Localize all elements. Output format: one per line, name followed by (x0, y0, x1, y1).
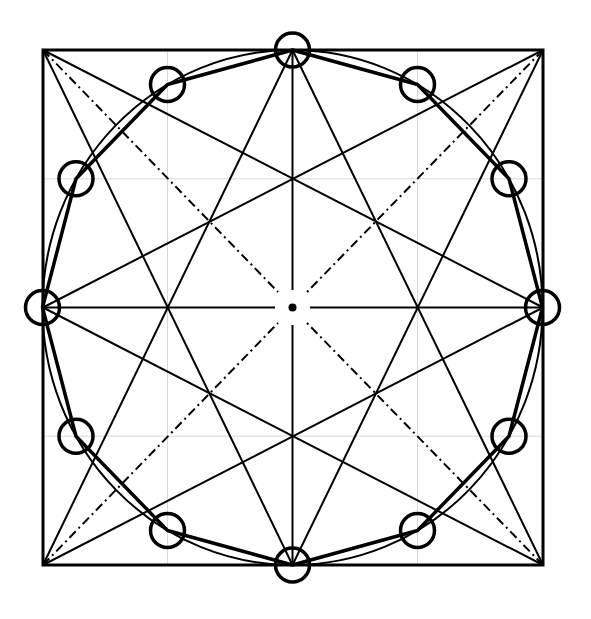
diagonal-dashdot (307, 323, 543, 565)
diagonal-dashdot (43, 50, 278, 292)
diagonal-dashdot (43, 323, 278, 565)
diagonal-dashdot (307, 50, 543, 292)
center-point (289, 304, 297, 312)
geometry-diagram (0, 0, 591, 619)
center-dot (289, 304, 297, 312)
